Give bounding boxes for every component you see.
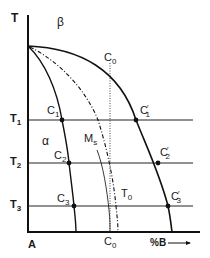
t1-label: T1 [10,113,21,124]
origin-a-label: A [28,239,36,250]
t3-letter: T [10,198,17,210]
c3-label: C3 [57,193,69,204]
c0-top-label: C0 [104,52,116,63]
c1-prime-sub: 1 [145,110,149,119]
ms-curve [97,150,110,232]
c0-bottom-label: C0 [104,236,116,247]
c1-prime-label: C′1 [140,105,150,116]
ms-sub: s [93,138,97,147]
c1-sub: 1 [55,110,59,119]
point-c1-prime [134,118,139,123]
t2-letter: T [10,155,17,167]
t2-label: T2 [10,156,21,167]
t2-sub: 2 [17,161,21,170]
ms-label: Ms [84,133,97,144]
t1-sub: 1 [17,118,21,127]
t3-label: T3 [10,199,21,210]
c0-top-sub: 0 [112,57,116,66]
point-c3 [72,204,77,209]
c1-letter: C [47,104,55,116]
c2-letter: C [54,149,62,161]
t0-letter: T [121,187,128,199]
c0-bottom-sub: 0 [112,241,116,250]
t0-sub: 0 [128,193,132,202]
c2-prime-label: C′2 [160,147,170,158]
phase-diagram [0,0,210,258]
c3-sub: 3 [65,198,69,207]
point-c3-prime [166,204,171,209]
x-axis-label: %B [150,238,166,248]
ms-letter: M [84,132,93,144]
point-c2-prime [156,161,161,166]
c3-prime-sub: 3 [176,196,180,205]
beta-boundary-curve [28,46,172,232]
c3-letter: C [57,192,65,204]
c1-label: C1 [47,105,59,116]
c2-label: C2 [54,150,66,161]
c0-top-letter: C [104,51,112,63]
alpha-phase-label: α [42,135,49,147]
y-axis-label: T [11,12,18,24]
point-c2 [67,161,72,166]
c3-prime-label: C′3 [171,191,181,202]
t0-label: T0 [121,188,132,199]
x-arrow-head-icon [186,241,191,245]
t3-sub: 3 [17,204,21,213]
t1-letter: T [10,112,17,124]
point-c1 [60,118,65,123]
c2-sub: 2 [62,155,66,164]
beta-phase-label: β [57,16,64,28]
c2-prime-sub: 2 [165,152,169,161]
c0-bottom-letter: C [104,235,112,247]
